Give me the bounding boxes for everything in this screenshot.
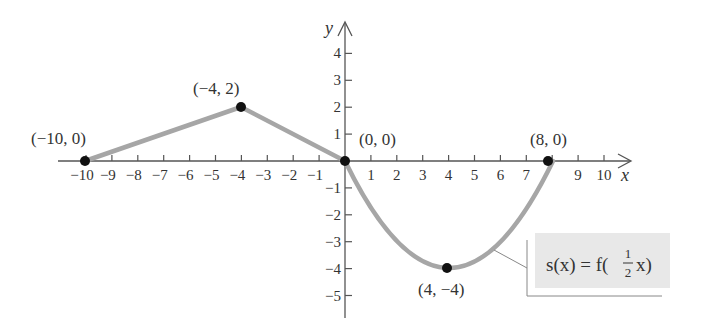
x-tick-label: −7 — [152, 167, 168, 183]
y-tick-label: 3 — [334, 72, 342, 88]
point-label-8-0: (8, 0) — [530, 130, 567, 149]
x-tick-label: −5 — [204, 167, 220, 183]
y-tick-label: −4 — [325, 261, 341, 277]
y-tick-label: −5 — [325, 288, 341, 304]
x-axis-label: x — [620, 165, 629, 185]
point-label-4-neg4: (4, −4) — [418, 280, 464, 299]
formula-callout: s(x) = f( 1 2 x) — [494, 233, 670, 296]
point-neg4-2 — [236, 102, 246, 112]
point-4-neg4 — [442, 263, 452, 273]
y-tick-label: −1 — [325, 180, 341, 196]
y-axis-label: y — [323, 18, 333, 38]
point-label-neg4-2: (−4, 2) — [193, 79, 239, 98]
x-tick-label: −4 — [229, 167, 245, 183]
x-tick-label: −1 — [307, 167, 323, 183]
callout-leader-line — [494, 250, 527, 268]
function-curve — [85, 107, 553, 268]
x-tick-label: 5 — [471, 167, 479, 183]
key-points — [80, 102, 553, 273]
x-tick-label: 10 — [597, 167, 612, 183]
x-tick-label: 3 — [419, 167, 427, 183]
point-8-0 — [543, 156, 553, 166]
x-tick-label: −8 — [126, 167, 142, 183]
point-0-0 — [340, 156, 350, 166]
formula-prefix: s(x) = f( — [546, 254, 608, 276]
x-tick-label: 9 — [574, 167, 582, 183]
x-tick-label: −9 — [100, 167, 116, 183]
function-graph: −10−9−8−7−6−5−4−3−2−11234567910 4321−1−2… — [0, 0, 705, 329]
y-tick-label: −3 — [325, 234, 341, 250]
y-tick-label: 2 — [334, 99, 342, 115]
x-tick-label: −6 — [178, 167, 194, 183]
formula-fraction-numerator: 1 — [625, 246, 632, 261]
x-tick-label: −2 — [281, 167, 297, 183]
x-tick-label: 7 — [523, 167, 531, 183]
x-tick-label: 2 — [393, 167, 401, 183]
x-tick-label: 4 — [445, 167, 453, 183]
y-tick-label: 1 — [334, 126, 342, 142]
point-neg10-0 — [80, 156, 90, 166]
y-axis-tick-labels: 4321−1−2−3−4−5 — [325, 45, 341, 303]
formula-fraction-denominator: 2 — [625, 265, 632, 280]
x-tick-label: −10 — [70, 167, 93, 183]
x-tick-label: 6 — [497, 167, 505, 183]
y-tick-label: 4 — [334, 45, 342, 61]
point-label-neg10-0: (−10, 0) — [31, 129, 86, 148]
point-label-0-0: (0, 0) — [359, 130, 396, 149]
x-tick-label: −3 — [255, 167, 271, 183]
x-tick-label: 1 — [367, 167, 375, 183]
formula-suffix: x) — [636, 254, 652, 276]
y-tick-label: −2 — [325, 207, 341, 223]
